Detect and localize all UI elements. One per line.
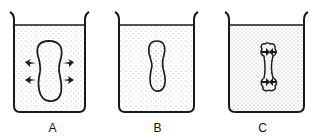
- beaker-c-drawing: [205, 0, 310, 138]
- cell-normal: [149, 41, 165, 91]
- panel-label-a: A: [0, 121, 105, 135]
- beaker-panel-b: B: [105, 0, 210, 138]
- panel-label-b: B: [105, 121, 210, 135]
- beaker-b-drawing: [105, 0, 210, 138]
- panel-label-c: C: [210, 121, 314, 135]
- beaker-panel-c: C: [205, 0, 310, 138]
- beaker-a-drawing: [0, 0, 105, 138]
- beaker-panel-a: A: [0, 0, 105, 138]
